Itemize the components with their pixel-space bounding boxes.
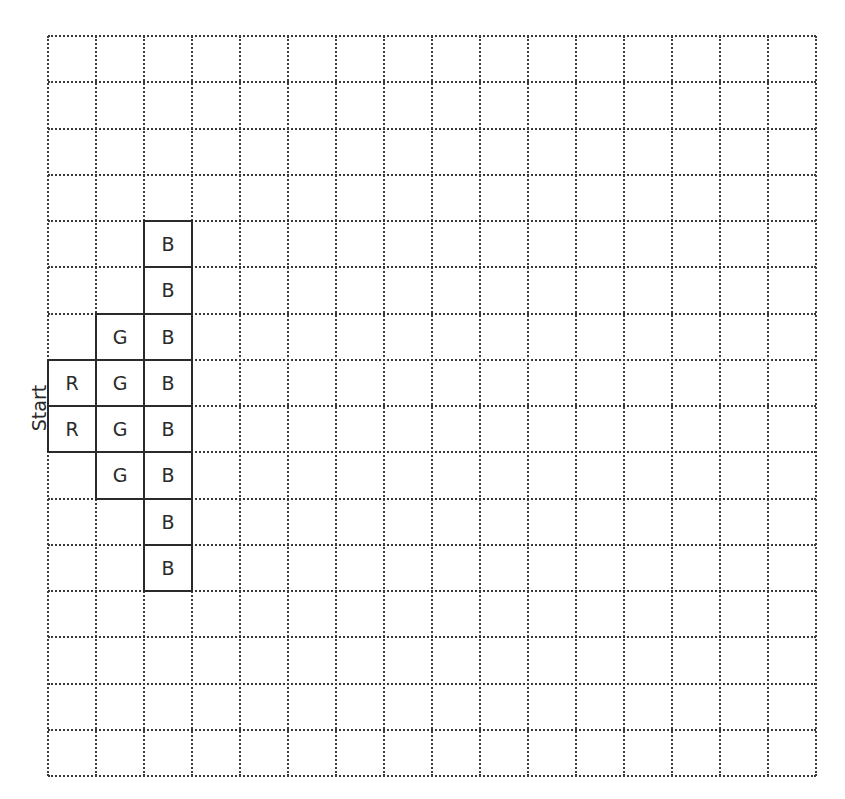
grid-cell-g: G (95, 451, 145, 499)
grid-cell-r: R (47, 405, 97, 453)
grid-cell-b: B (143, 313, 193, 361)
grid-col-line (287, 36, 289, 776)
grid-cell-b: B (143, 266, 193, 314)
grid-cell-g: G (95, 405, 145, 453)
grid-cell-b: B (143, 359, 193, 407)
grid-col-line (383, 36, 385, 776)
grid-cell-g: G (95, 359, 145, 407)
grid-cell-b: B (143, 498, 193, 546)
grid-cell-r: R (47, 359, 97, 407)
grid-col-line (431, 36, 433, 776)
start-label: Start (28, 383, 50, 433)
grid-col-line (239, 36, 241, 776)
grid-cell-g: G (95, 313, 145, 361)
grid-cell-b: B (143, 451, 193, 499)
grid-cell-b: B (143, 220, 193, 268)
grid-col-line (815, 36, 817, 776)
grid-col-line (335, 36, 337, 776)
grid-col-line (623, 36, 625, 776)
grid-cell-b: B (143, 544, 193, 592)
grid-col-line (767, 36, 769, 776)
grid-col-line (527, 36, 529, 776)
grid-col-line (671, 36, 673, 776)
grid-col-line (719, 36, 721, 776)
grid-cell-b: B (143, 405, 193, 453)
grid-col-line (479, 36, 481, 776)
grid-col-line (575, 36, 577, 776)
dotted-grid: BBGBRGBRGBGBBB (48, 36, 816, 776)
